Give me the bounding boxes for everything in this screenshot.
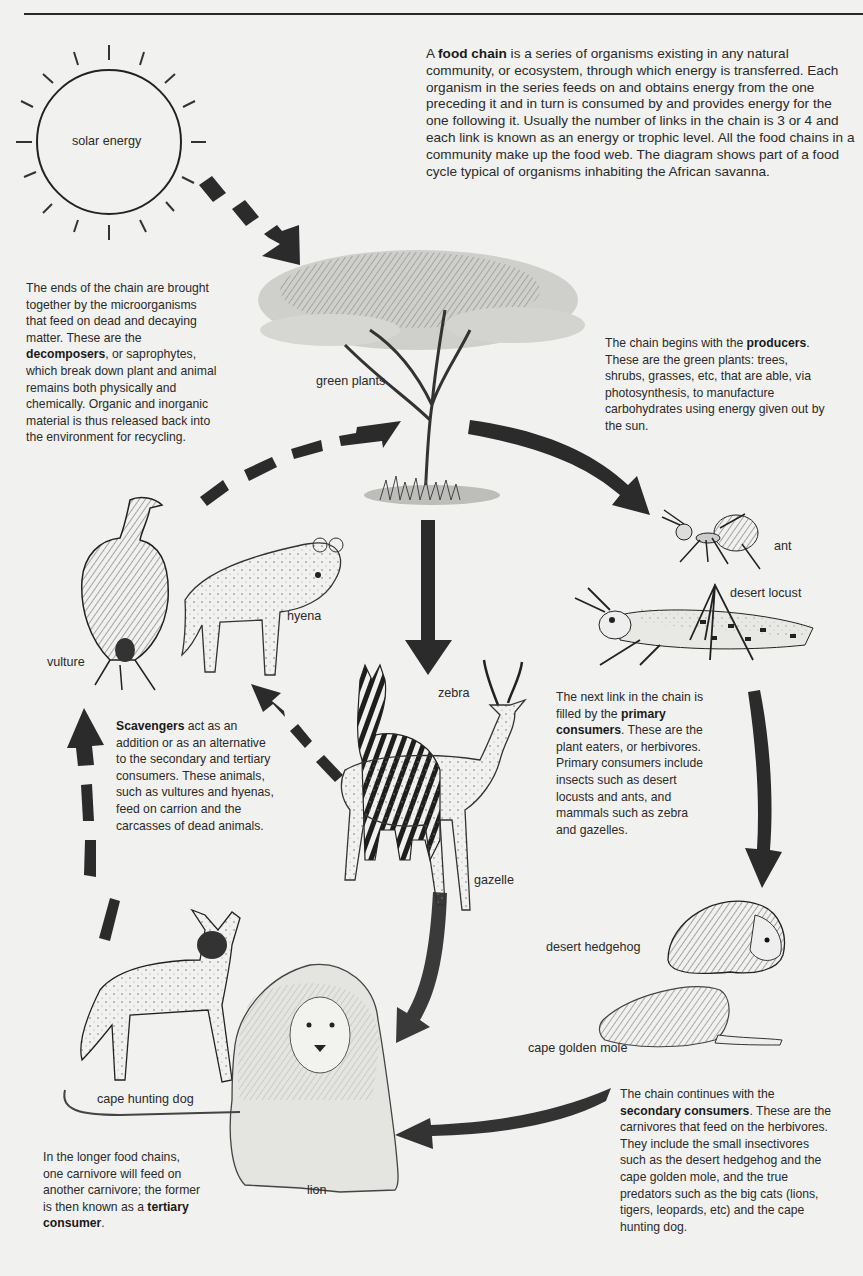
label-green-plants: green plants <box>316 374 385 388</box>
cape-golden-mole-illustration <box>599 987 782 1047</box>
arrow-insects-to-insectivores <box>745 690 782 888</box>
term-producers: producers <box>747 336 807 350</box>
label-vulture: vulture <box>47 655 85 669</box>
arrow-carnivores-to-scavengers <box>67 708 120 941</box>
tertiary-consumers-paragraph: In the longer food chains, one carnivore… <box>43 1149 201 1232</box>
decomposers-paragraph: The ends of the chain are brought togeth… <box>26 280 218 446</box>
term-food-chain: food chain <box>438 46 507 61</box>
arrow-herbivores-to-carnivores <box>396 892 447 1043</box>
label-ant: ant <box>774 539 792 553</box>
label-hyena: hyena <box>287 609 321 623</box>
vulture-illustration <box>82 498 169 690</box>
acacia-tree-illustration <box>258 250 585 505</box>
term-secondary-consumers: secondary consumers <box>620 1104 749 1118</box>
term-decomposers: decomposers <box>26 347 105 361</box>
arrow-insectivores-to-carnivores <box>395 1088 611 1149</box>
term-scavengers: Scavengers <box>116 719 184 733</box>
label-gazelle: gazelle <box>474 873 514 887</box>
hyena-illustration <box>182 538 343 675</box>
label-desert-locust: desert locust <box>730 586 801 600</box>
label-solar-energy: solar energy <box>72 134 141 148</box>
arrow-sun-to-plants <box>199 176 300 265</box>
label-cape-golden-mole: cape golden mole <box>528 1041 627 1055</box>
label-zebra: zebra <box>438 686 470 700</box>
intro-paragraph: A food chain is a series of organisms ex… <box>426 46 858 180</box>
scavengers-paragraph: Scavengers act as an addition or as an a… <box>116 718 278 834</box>
label-lion: lion <box>307 1183 327 1197</box>
desert-hedgehog-illustration <box>668 901 784 973</box>
arrow-plants-to-herbivores <box>405 520 452 675</box>
food-chain-illustration <box>0 0 863 1276</box>
ant-illustration <box>662 510 760 569</box>
label-desert-hedgehog: desert hedgehog <box>546 940 641 954</box>
producers-paragraph: The chain begins with the producers. The… <box>605 335 827 435</box>
primary-consumers-paragraph: The next link in the chain is filled by … <box>556 689 706 838</box>
secondary-consumers-paragraph: The chain continues with the secondary c… <box>620 1086 834 1235</box>
label-cape-hunting-dog: cape hunting dog <box>97 1092 194 1106</box>
